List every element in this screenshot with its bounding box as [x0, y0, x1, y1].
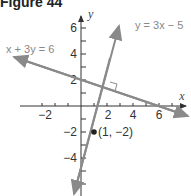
- y-tick-label: 2: [70, 73, 77, 87]
- x-axis-label: x: [178, 89, 185, 103]
- y-tick-label: 4: [70, 47, 77, 61]
- y-axis-label: y: [87, 7, 94, 21]
- point-1-neg2: [91, 129, 97, 135]
- x-tick-label: −2: [38, 108, 52, 122]
- x-tick-label: 2: [105, 108, 112, 122]
- x-axis: −2 2 4 6 x: [20, 89, 186, 122]
- y-tick-label: 6: [70, 21, 77, 35]
- x-tick-label: 6: [156, 108, 163, 122]
- x-tick-label: 4: [130, 108, 137, 122]
- y-tick-label: −4: [63, 151, 77, 165]
- point-label: (1, −2): [98, 125, 133, 139]
- y-axis: 6 4 2 −2 −4 y: [63, 7, 94, 196]
- y-tick-label: −2: [63, 125, 77, 139]
- graph: −2 2 4 6 x 6 4 2 −2 −4 y: [0, 0, 191, 196]
- equation-label-line2: x + 3y = 6: [6, 43, 54, 55]
- equation-label-line1: y = 3x − 5: [135, 19, 183, 31]
